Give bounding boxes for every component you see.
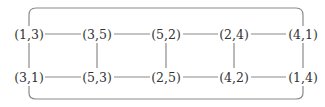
node-3-1: (3,1) [14,70,44,85]
edge-wrap-bottom [29,86,303,99]
graph-diagram: (1,3) (3,5) (5,2) (2,4) (4,1) (3,1) (5,3… [0,0,325,107]
node-1-3: (1,3) [14,27,44,42]
node-3-5: (3,5) [82,27,112,42]
node-5-3: (5,3) [82,70,112,85]
edge-wrap-top [29,8,303,26]
node-1-4: (1,4) [288,70,318,85]
node-5-2: (5,2) [151,27,181,42]
node-2-4: (2,4) [219,27,249,42]
node-2-5: (2,5) [151,70,181,85]
node-4-1: (4,1) [288,27,318,42]
node-4-2: (4,2) [219,70,249,85]
